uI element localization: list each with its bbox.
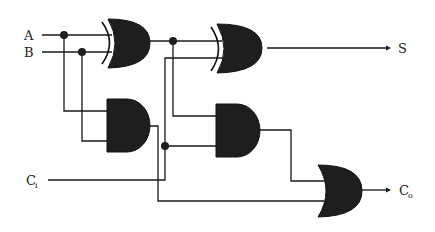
xor-gate-1 — [102, 19, 150, 68]
label-b: B — [24, 45, 34, 60]
junction-xor1 — [169, 37, 177, 45]
junction-ci — [161, 142, 169, 150]
junction-a — [60, 31, 68, 39]
and-gate-2 — [216, 104, 260, 157]
and-gate-1 — [107, 99, 150, 152]
wire-xor1-to-and2 — [173, 41, 216, 116]
xor-gate-2 — [211, 24, 262, 73]
full-adder-diagram: A B C i S C o — [0, 0, 435, 232]
wire-and2-out — [260, 130, 324, 181]
wire-b-to-and1 — [82, 52, 107, 141]
label-s: S — [398, 41, 407, 56]
arrow-co-icon — [386, 188, 391, 193]
label-co-sub: o — [408, 191, 413, 200]
label-ci-sub: i — [35, 181, 38, 190]
label-a: A — [23, 28, 34, 43]
arrow-s-icon — [386, 46, 391, 51]
wire-a-to-and1 — [64, 35, 107, 111]
junction-b — [78, 48, 86, 56]
or-gate — [318, 165, 362, 217]
